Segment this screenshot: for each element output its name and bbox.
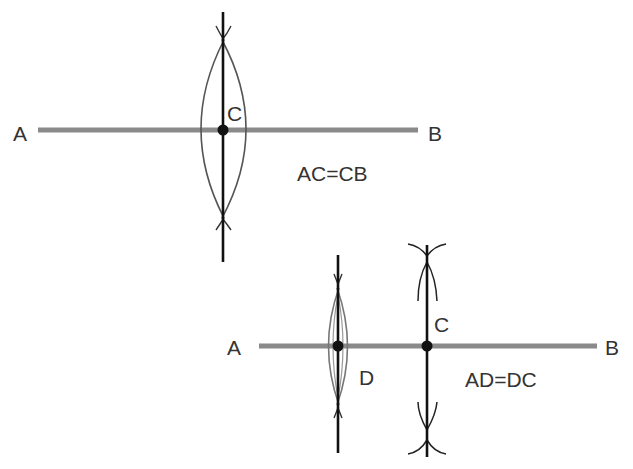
c-arc-bottom-right bbox=[427, 440, 446, 454]
c-arc-top-left-down bbox=[418, 262, 427, 301]
c-arc-top-right bbox=[427, 244, 446, 256]
label-d: D bbox=[359, 366, 374, 389]
label-c: C bbox=[227, 102, 242, 125]
equation-ac-cb: AC=CB bbox=[297, 162, 368, 185]
figure-perpendicular-bisector-ab: A B C AC=CB bbox=[13, 12, 442, 262]
label-a: A bbox=[227, 336, 241, 359]
c-arc-top-right-down bbox=[427, 262, 437, 301]
equation-ad-dc: AD=DC bbox=[465, 368, 537, 391]
figure-bisect-ac: A B C D AD=DC bbox=[227, 244, 619, 457]
label-b: B bbox=[428, 122, 442, 145]
midpoint-c-dot bbox=[218, 125, 229, 136]
construction-diagram: A B C AC=CB A B C D AD=DC bbox=[0, 0, 633, 469]
c-arc-bottom-left bbox=[408, 440, 427, 454]
point-c-dot bbox=[422, 341, 433, 352]
c-arc-bottom-right-up bbox=[427, 402, 437, 430]
label-a: A bbox=[13, 122, 27, 145]
label-c: C bbox=[434, 313, 449, 336]
label-b: B bbox=[605, 336, 619, 359]
c-arc-bottom-left-up bbox=[418, 402, 427, 430]
midpoint-d-dot bbox=[333, 341, 344, 352]
c-arc-top-left bbox=[408, 244, 427, 256]
